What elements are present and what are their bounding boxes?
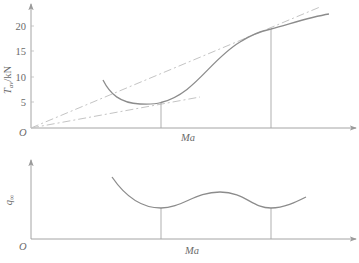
ytick-label-5: 5 <box>21 97 26 108</box>
bottom-x-label: Ma <box>184 245 199 256</box>
svg-text:q∞: q∞ <box>3 195 16 205</box>
svg-text:Tav/kN: Tav/kN <box>2 65 15 94</box>
q-chart: q∞ O Ma <box>3 160 356 256</box>
thrust-curve <box>103 14 329 104</box>
figure: 5 10 15 20 Tav/kN O Ma q∞ O Ma <box>0 0 359 263</box>
lower-tangent-line <box>31 97 200 128</box>
q-curve <box>112 177 306 208</box>
top-origin-label: O <box>19 127 27 138</box>
ytick-label-10: 10 <box>16 72 27 83</box>
ytick-label-20: 20 <box>16 21 27 32</box>
ytick-label-15: 15 <box>16 46 27 57</box>
upper-tangent-line <box>31 7 320 128</box>
bottom-y-label: q∞ <box>3 195 16 205</box>
bottom-origin-label: O <box>19 241 27 252</box>
top-y-label: Tav/kN <box>2 65 15 94</box>
top-x-label: Ma <box>180 132 195 143</box>
thrust-chart: 5 10 15 20 Tav/kN O Ma <box>2 4 356 143</box>
